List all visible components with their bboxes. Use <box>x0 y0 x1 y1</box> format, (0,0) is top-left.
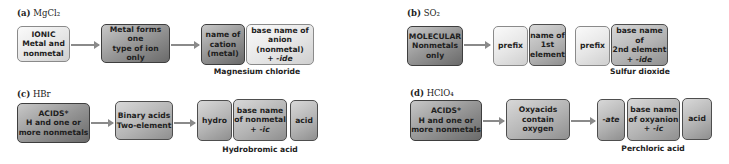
caption-sulfur-dioxide: Sulfur dioxide <box>610 67 670 76</box>
arrow-icon <box>571 120 595 122</box>
acid-box: acid <box>682 98 712 140</box>
acids-box: ACIDS*H and one ormore nonmetals <box>17 103 90 143</box>
second-element-base-name-box: base name of2nd element+ -ide <box>611 24 668 66</box>
ionic-box: IONICMetal andnonmetal <box>17 26 70 62</box>
ate-box: -ate <box>597 99 625 141</box>
panel-a-label: (a) MgCl₂ <box>17 8 60 18</box>
panel-d-label: (d) HClO₄ <box>410 88 454 98</box>
caption-perchloric-acid: Perchloric acid <box>621 144 684 153</box>
acid-box: acid <box>290 100 318 141</box>
arrow-icon <box>483 120 504 122</box>
panel-c-label: (c) HBr <box>17 89 51 99</box>
cation-name-box: name ofcation(metal) <box>201 24 245 65</box>
prefix-box-2: prefix <box>575 26 610 66</box>
arrow-icon <box>174 122 195 124</box>
prefix-box-1: prefix <box>493 26 528 66</box>
metal-forms-one-ion-box: Metal forms onetype of ion only <box>101 24 170 63</box>
oxyacids-box: Oxyacidscontain oxygen <box>506 99 570 140</box>
first-element-name-box: name of1stelement <box>529 24 566 66</box>
hydro-box: hydro <box>197 100 232 141</box>
caption-hydrobromic-acid: Hydrobromic acid <box>222 145 297 154</box>
nonmetal-base-name-box: base nameof nonmetal+ -ic <box>233 99 287 141</box>
arrow-icon <box>171 44 199 46</box>
anion-base-name-box: base name ofanion (nonmetal)+ -ide <box>246 24 314 65</box>
arrow-icon <box>91 122 113 124</box>
oxyanion-base-name-box: base nameof oxyanion+ -ic <box>627 98 680 141</box>
arrow-icon <box>464 44 490 46</box>
molecular-box: MOLECULARNonmetalsonly <box>407 26 463 66</box>
caption-magnesium-chloride: Magnesium chloride <box>214 67 300 76</box>
binary-acids-box: Binary acidsTwo-element <box>115 101 173 140</box>
arrow-icon <box>71 44 99 46</box>
acids-box: ACIDS*H and one ormore nonmetals <box>410 100 482 141</box>
panel-b-label: (b) SO₂ <box>407 8 440 18</box>
